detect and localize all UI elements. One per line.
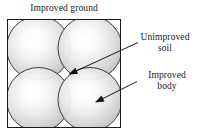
improved-body-bottom-right <box>58 68 122 132</box>
annotation-label-improved-body-line1: Improved <box>136 70 198 81</box>
annotation-label-unimproved-soil-line1: Unimproved <box>132 32 198 43</box>
annotation-label-improved-body-line2: body <box>136 81 198 92</box>
annotation-label-improved-body: Improved body <box>136 70 198 91</box>
annotation-label-unimproved-soil: Unimproved soil <box>132 32 198 53</box>
annotation-label-unimproved-soil-line2: soil <box>132 43 198 54</box>
improved-ground-diagram: Improved ground <box>0 0 198 140</box>
